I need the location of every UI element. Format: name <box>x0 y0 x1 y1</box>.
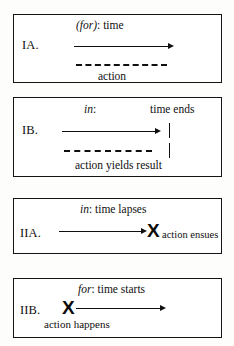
panel-IIB-caption-rest: : time starts <box>91 283 145 295</box>
panel-IIB-caption-italic: for <box>78 283 91 295</box>
panel-IB-caption: in: <box>84 104 96 116</box>
panel-IB-boundary-mark-lower <box>169 143 170 158</box>
panel-IIA: IIA. in: time lapses X action ensues <box>13 198 222 254</box>
panel-IA-timeline-arrowhead-icon <box>168 43 174 49</box>
panel-IB-caption-rest: : <box>93 103 96 115</box>
panel-label-IIB: IIB. <box>20 304 40 317</box>
panel-IIB-endpoint-glyph: X <box>62 298 75 317</box>
panel-IA-timeline <box>74 46 170 47</box>
figure-container: IA. (for): time action IB. in: time ends… <box>0 0 234 346</box>
panel-IB-caption-italic: in <box>84 103 93 115</box>
panel-IB-action-line <box>64 150 152 152</box>
panel-IB-timeline <box>62 131 157 132</box>
panel-IIA-caption: in: time lapses <box>80 204 146 216</box>
panel-IIA-caption-rest: : time lapses <box>89 203 147 215</box>
panel-label-IIA: IIA. <box>20 227 41 240</box>
panel-IA: IA. (for): time action <box>13 14 222 83</box>
panel-IIA-timeline <box>59 231 143 232</box>
panel-IIA-endpoint-glyph: X <box>147 221 160 240</box>
panel-IA-action-line <box>76 64 167 66</box>
panel-IA-caption-italic: (for) <box>76 19 97 31</box>
panel-IIB-caption: for: time starts <box>78 284 145 296</box>
panel-IIB: IIB. for: time starts X action happens <box>13 278 222 338</box>
panel-IB-action-label: action yields result <box>75 160 162 172</box>
panel-label-IB: IB. <box>22 124 38 137</box>
panel-IIB-action-label: action happens <box>44 319 110 330</box>
panel-IIB-timeline <box>76 308 162 309</box>
panel-label-IA: IA. <box>22 39 39 52</box>
panel-IB-timeline-arrowhead-icon <box>155 128 161 134</box>
panel-IIB-timeline-arrowhead-icon <box>160 305 166 311</box>
panel-IB: IB. in: time ends action yields result <box>13 97 222 177</box>
panel-IB-boundary-mark-upper <box>169 123 170 138</box>
panel-IA-caption-rest: : time <box>97 19 124 31</box>
panel-IB-caption-right: time ends <box>150 104 194 116</box>
panel-IIA-caption-italic: in <box>80 203 89 215</box>
panel-IIA-action-label: action ensues <box>162 230 218 241</box>
panel-IA-action-label: action <box>98 71 126 83</box>
panel-IA-caption: (for): time <box>76 20 124 32</box>
